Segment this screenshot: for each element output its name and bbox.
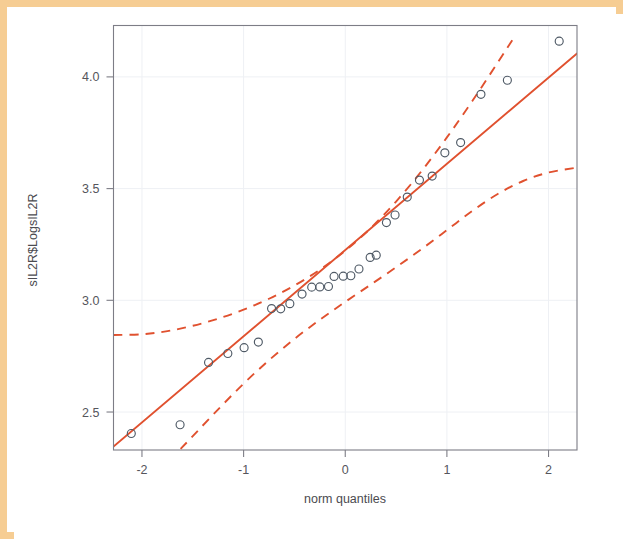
x-axis: -2-1012: [136, 450, 552, 477]
data-point: [391, 211, 399, 219]
data-point: [555, 37, 563, 45]
data-point: [298, 290, 306, 298]
y-tick-label: 3.0: [82, 294, 99, 308]
data-point: [176, 421, 184, 429]
data-point: [457, 139, 465, 147]
y-tick-label: 3.5: [82, 182, 99, 196]
data-point: [355, 265, 363, 273]
data-point: [324, 282, 332, 290]
data-point: [308, 283, 316, 291]
data-point: [347, 272, 355, 280]
data-point: [339, 272, 347, 280]
gridlines: [114, 26, 578, 451]
data-point: [330, 272, 338, 280]
data-point: [441, 149, 449, 157]
plot-svg: -2-1012 2.53.03.54.0 norm quantiles sIL2…: [0, 0, 623, 539]
qq-plot-figure: -2-1012 2.53.03.54.0 norm quantiles sIL2…: [0, 0, 623, 539]
data-point: [477, 90, 485, 98]
x-tick-label: 2: [545, 463, 552, 477]
x-tick-label: -2: [136, 463, 147, 477]
x-tick-label: 1: [443, 463, 450, 477]
data-point: [415, 176, 423, 184]
y-tick-label: 2.5: [82, 406, 99, 420]
x-tick-label: 0: [342, 463, 349, 477]
data-point: [286, 300, 294, 308]
y-axis-title: sIL2R$LogsIL2R: [26, 193, 40, 286]
x-axis-title: norm quantiles: [304, 492, 386, 506]
y-axis: 2.53.03.54.0: [82, 70, 113, 419]
y-tick-label: 4.0: [82, 70, 99, 84]
data-point: [503, 76, 511, 84]
data-point: [240, 344, 248, 352]
data-point: [382, 219, 390, 227]
envelope-lower-band: [181, 168, 577, 449]
data-point: [316, 283, 324, 291]
x-tick-label: -1: [238, 463, 249, 477]
data-point: [254, 338, 262, 346]
